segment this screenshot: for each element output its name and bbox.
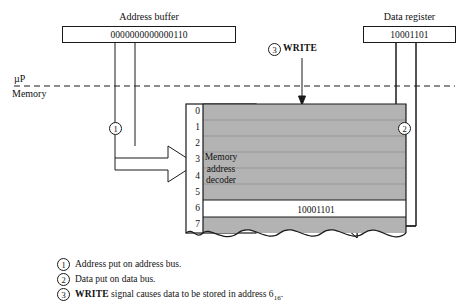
memory-row-index-2: 2 (188, 139, 200, 149)
legend-label-2: Data put on data bus. (75, 272, 155, 287)
address-buffer-box[interactable]: 0000000000000110 (62, 26, 236, 43)
address-bus (115, 43, 135, 158)
address-buffer-title: Address buffer (62, 12, 236, 22)
address-bus-arrow (115, 146, 196, 182)
memory-row-index-6: 6 (188, 204, 200, 214)
data-register-title: Data register (363, 12, 456, 22)
data-register-box[interactable]: 10001101 (363, 26, 456, 43)
legend: 1 Address put on address bus. 2 Data put… (57, 257, 457, 302)
memory-side-label: Memory (12, 89, 46, 99)
write-signal-arrow (299, 58, 306, 105)
memory-row-index-1: 1 (188, 123, 200, 133)
legend-label-3-mid: signal causes data to be stored in addre… (109, 289, 274, 299)
memory-row-index-5: 5 (188, 188, 200, 198)
legend-item-2: 2 Data put on data bus. (57, 272, 457, 287)
legend-write-keyword: WRITE (75, 289, 109, 299)
write-signal-label: WRITE (283, 44, 317, 54)
data-register-value: 10001101 (390, 30, 428, 40)
step-marker-1: 1 (109, 122, 122, 135)
diagram-canvas: Address buffer 0000000000000110 Data reg… (0, 0, 463, 308)
legend-label-3: WRITE signal causes data to be stored in… (75, 287, 283, 306)
legend-marker-1: 1 (57, 258, 70, 271)
memory-row-index-0: 0 (188, 107, 200, 117)
legend-label-3-post: . (281, 289, 283, 299)
step-marker-3: 3 (268, 43, 281, 56)
memory-row-index-4: 4 (188, 172, 200, 182)
address-buffer-value: 0000000000000110 (110, 30, 187, 40)
memory-row-index-7: 7 (188, 220, 200, 230)
legend-label-3-subscript: 16 (274, 294, 281, 302)
memory-cell-6-value: 10001101 (266, 206, 366, 216)
legend-item-3: 3 WRITE signal causes data to be stored … (57, 287, 457, 302)
step-marker-2: 2 (398, 122, 411, 135)
memory-row-index-3: 3 (188, 155, 200, 165)
legend-marker-2: 2 (57, 273, 70, 286)
microprocessor-label: µP (14, 74, 25, 84)
legend-marker-3: 3 (57, 288, 70, 301)
legend-item-1: 1 Address put on address bus. (57, 257, 457, 272)
legend-label-1: Address put on address bus. (75, 257, 181, 272)
